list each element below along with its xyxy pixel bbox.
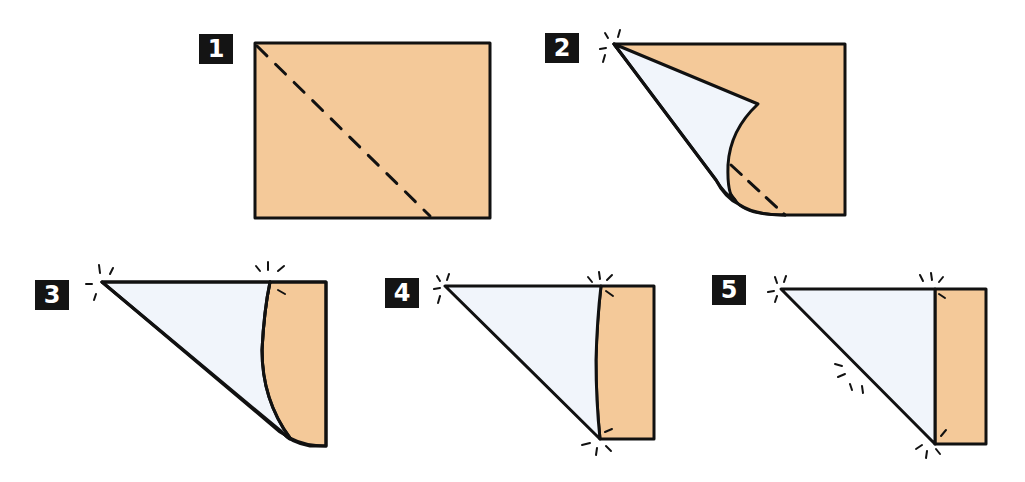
diagram-canvas	[0, 0, 1025, 482]
step-number-badge: 2	[545, 33, 579, 63]
folding-diagram: 1 2 3 4 5	[0, 0, 1025, 482]
step-number-badge: 3	[35, 280, 69, 310]
step-number-badge: 1	[199, 34, 233, 64]
paper-front-strip	[596, 286, 654, 439]
step-1-illustration	[255, 43, 490, 218]
step-2-illustration	[600, 30, 845, 215]
step-number-badge: 5	[712, 275, 746, 305]
paper-back-triangle	[781, 289, 935, 444]
step-number-badge: 4	[385, 278, 419, 308]
step-4-illustration	[434, 272, 654, 455]
step-5-illustration	[768, 273, 986, 458]
step-3-illustration	[86, 262, 326, 446]
paper-rectangle	[255, 43, 490, 218]
paper-back-triangle	[445, 286, 601, 439]
paper-front-strip	[935, 289, 986, 444]
